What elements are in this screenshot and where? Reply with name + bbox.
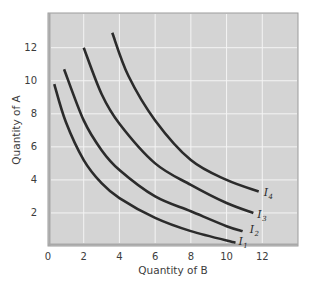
x-tick-label: 8: [188, 251, 194, 262]
y-tick-label: 12: [24, 42, 37, 53]
x-axis-label: Quantity of B: [138, 264, 207, 276]
y-tick-label: 6: [31, 141, 37, 152]
y-axis-label: Quantity of A: [10, 95, 22, 165]
x-tick-label: 12: [256, 251, 269, 262]
x-tick-label: 10: [220, 251, 233, 262]
y-tick-label: 4: [31, 174, 37, 185]
x-tick-label: 2: [81, 251, 87, 262]
x-axis-ticks: 024681012: [45, 251, 269, 262]
x-tick-label: 6: [152, 251, 158, 262]
x-tick-label: 4: [116, 251, 122, 262]
y-axis-ticks: 24681012: [24, 42, 37, 218]
x-tick-label: 0: [45, 251, 51, 262]
y-tick-label: 8: [31, 108, 37, 119]
y-tick-label: 2: [31, 207, 37, 218]
indifference-curve-chart: I1I2I3I4 024681012 24681012 Quantity of …: [0, 0, 311, 290]
y-tick-label: 10: [24, 75, 37, 86]
